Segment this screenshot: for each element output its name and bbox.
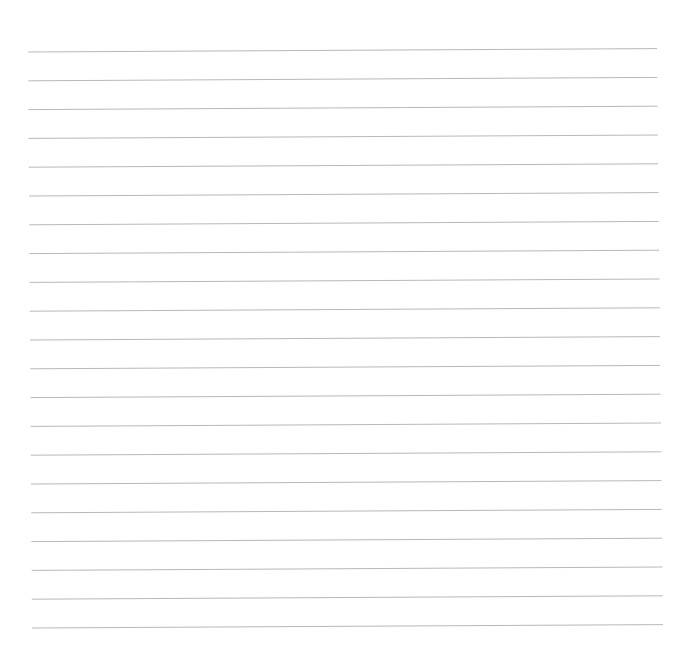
ruled-lines-svg <box>0 0 691 654</box>
lined-paper-sheet <box>0 0 691 654</box>
paper-background <box>0 0 691 654</box>
ruled-lines-layer <box>0 0 691 654</box>
